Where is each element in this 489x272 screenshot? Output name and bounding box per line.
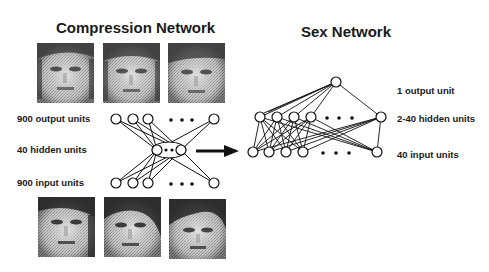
sex-network-diagram <box>248 77 386 157</box>
arrow-icon <box>196 145 239 157</box>
network-diagrams <box>0 0 489 272</box>
